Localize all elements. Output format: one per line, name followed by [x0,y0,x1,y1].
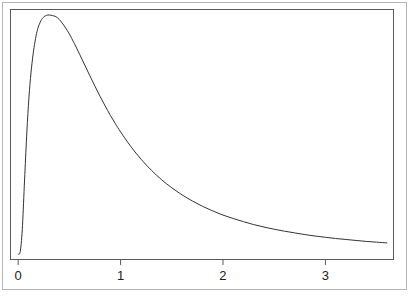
data-series-group [18,15,387,254]
x-axis-ticks [18,259,325,265]
density-curve [18,15,387,254]
chart-canvas [0,0,411,296]
figure-container: 0123 [0,0,411,296]
